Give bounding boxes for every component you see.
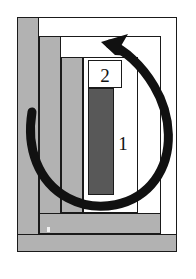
scan-speck-artifact xyxy=(47,227,50,232)
label-2: 2 xyxy=(96,66,114,85)
block-dark-core-bar xyxy=(88,88,114,195)
label-1: 1 xyxy=(114,134,132,153)
block-outer-left-column xyxy=(17,17,39,252)
figure-canvas: 2 1 xyxy=(0,0,196,279)
block-second-left-column xyxy=(39,36,61,234)
block-lower-horizontal-band xyxy=(39,213,161,234)
block-third-left-column xyxy=(61,57,83,213)
block-base-horizontal-band xyxy=(17,234,177,252)
